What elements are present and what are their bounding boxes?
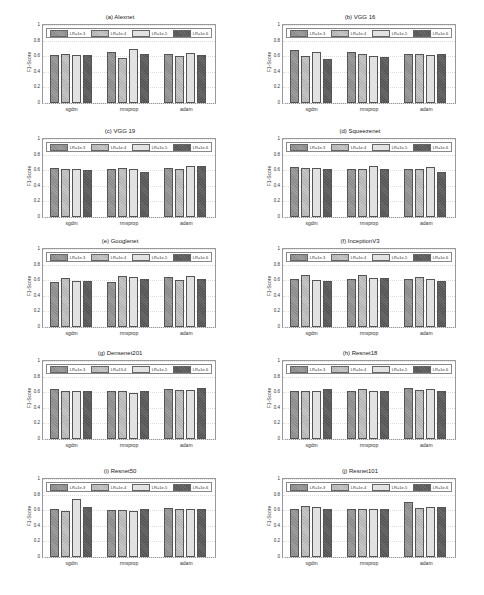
legend-item: LR=1e-5	[372, 30, 407, 37]
bar	[290, 279, 299, 327]
bar	[426, 389, 435, 439]
y-tick-label: 0	[29, 554, 40, 559]
bar	[118, 510, 127, 557]
legend-item: LR=1e-5	[132, 366, 167, 373]
gridline	[283, 327, 455, 328]
chart-panel: (c) VGG 1900.20.40.60.81F1-ScoreLR=1e-3L…	[20, 128, 220, 233]
y-tick-label: 0.8	[269, 38, 280, 43]
y-axis-label: F1-Score	[266, 276, 272, 297]
legend-item: LR=1e-4	[331, 254, 366, 261]
y-tick-label: 1	[29, 136, 40, 141]
y-tick-label: 1	[269, 136, 280, 141]
bar	[186, 53, 195, 103]
legend-label: LR=1e-6	[193, 367, 208, 372]
x-tick-label: rmsprop	[109, 442, 149, 448]
bar	[323, 509, 332, 557]
chart-panel: (b) VGG 1600.20.40.60.81F1-ScoreLR=1e-3L…	[260, 14, 460, 119]
legend-swatch	[413, 366, 431, 373]
bar	[290, 509, 299, 557]
gridline	[43, 327, 215, 328]
bar	[118, 168, 127, 217]
plot-area: 00.20.40.60.81F1-ScoreLR=1e-3LR=1e-4LR=1…	[282, 138, 456, 218]
bar	[61, 278, 70, 327]
plot-area: 00.20.40.60.81F1-ScoreLR=1e-3LR=1e-4LR=1…	[282, 478, 456, 558]
x-tick-label: sgdm	[52, 330, 92, 336]
x-tick-label: adam	[166, 106, 206, 112]
legend: LR=1e-3LR=1e-4LR=1e-5LR=1e-6	[286, 364, 452, 374]
legend-item: LR=13-4	[91, 366, 126, 373]
y-tick-label: 0	[29, 214, 40, 219]
chart-panel: (i) Resnet5000.20.40.60.81F1-ScoreLR=1e-…	[20, 468, 220, 573]
bar	[358, 169, 367, 217]
x-tick-label: adam	[166, 330, 206, 336]
chart-panel: (d) Squeezenet00.20.40.60.81F1-ScoreLR=1…	[260, 128, 460, 233]
chart-title: (i) Resnet50	[20, 468, 220, 474]
y-tick-label: 0.2	[269, 198, 280, 203]
chart-panel: (a) Alexnet00.20.40.60.81F1-ScoreLR=1e-3…	[20, 14, 220, 119]
legend-label: LR=1e-4	[351, 255, 366, 260]
bar	[312, 168, 321, 217]
legend-item: LR=1e-3	[290, 484, 325, 491]
gridline	[283, 361, 455, 362]
gridline	[43, 479, 215, 480]
bar	[312, 391, 321, 439]
x-tick-label: rmsprop	[109, 560, 149, 566]
bar	[369, 391, 378, 439]
legend-swatch	[290, 30, 308, 37]
legend-swatch	[290, 484, 308, 491]
legend-swatch	[331, 144, 349, 151]
chart-title: (a) Alexnet	[20, 14, 220, 20]
legend-swatch	[50, 366, 68, 373]
bar	[107, 510, 116, 557]
legend-item: LR=1e-5	[132, 30, 167, 37]
bar	[50, 509, 59, 557]
gridline	[283, 139, 455, 140]
y-tick-label: 0.8	[29, 492, 40, 497]
figure: (a) Alexnet00.20.40.60.81F1-ScoreLR=1e-3…	[0, 0, 484, 595]
bar	[323, 59, 332, 103]
bar	[107, 52, 116, 103]
legend-swatch	[372, 144, 390, 151]
gridline	[43, 139, 215, 140]
chart-title: (g) Densenet201	[20, 350, 220, 356]
plot-area: 00.20.40.60.81F1-ScoreLR=1e-3LR=1e-4LR=1…	[282, 248, 456, 328]
bar	[197, 166, 206, 217]
legend-label: LR=1e-3	[310, 255, 325, 260]
bar	[347, 52, 356, 103]
bar	[197, 388, 206, 439]
bar	[437, 172, 446, 217]
gridline	[283, 155, 455, 156]
legend-swatch	[50, 254, 68, 261]
legend-label: LR=1e-5	[152, 255, 167, 260]
legend-swatch	[50, 144, 68, 151]
bar	[129, 393, 138, 439]
legend-item: LR=1e-5	[132, 144, 167, 151]
legend-label: LR=1e-6	[193, 31, 208, 36]
legend-item: LR=1e-4	[91, 254, 126, 261]
plot-area: 00.20.40.60.81F1-ScoreLR=1e-3LR=1e-4LR=1…	[42, 24, 216, 104]
bar	[415, 390, 424, 439]
plot-area: 00.20.40.60.81F1-ScoreLR=1e-3LR=1e-4LR=1…	[42, 478, 216, 558]
legend-label: LR=13-4	[111, 367, 126, 372]
legend-label: LR=1e-5	[152, 367, 167, 372]
bar	[369, 166, 378, 217]
gridline	[43, 25, 215, 26]
legend-swatch	[173, 366, 191, 373]
bar	[164, 389, 173, 439]
y-tick-label: 0	[269, 214, 280, 219]
legend-item: LR=1e-6	[413, 254, 448, 261]
legend-swatch	[173, 254, 191, 261]
legend-label: LR=1e-4	[111, 485, 126, 490]
x-tick-label: rmsprop	[109, 220, 149, 226]
bar	[426, 279, 435, 327]
bar	[197, 279, 206, 327]
bar	[426, 55, 435, 103]
legend-item: LR=1e-6	[173, 254, 208, 261]
bar	[72, 281, 81, 327]
bar	[347, 391, 356, 439]
y-tick-label: 0.2	[29, 538, 40, 543]
bar	[358, 389, 367, 439]
bar	[118, 276, 127, 327]
legend-swatch	[413, 144, 431, 151]
legend-label: LR=1e-3	[310, 485, 325, 490]
